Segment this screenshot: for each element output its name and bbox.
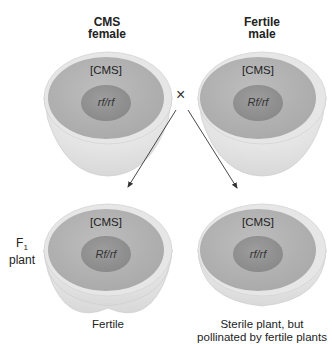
cytoplasm-label-f1-sterile: [CMS] xyxy=(208,216,308,228)
f1-subscript: 1 xyxy=(23,243,27,252)
caption-line-1: Fertile xyxy=(48,318,168,331)
caption-f1-fertile: Fertile xyxy=(48,318,168,331)
f1-plant-label: F1 plant xyxy=(5,237,39,267)
title-line-2: male xyxy=(207,28,317,40)
caption-line-2: pollinated by fertile plants xyxy=(190,331,332,344)
nucleus-genotype-male: Rf/rf xyxy=(233,96,283,108)
caption-line-1: Sterile plant, but xyxy=(190,318,332,331)
cytoplasm-label-f1-fertile: [CMS] xyxy=(56,216,156,228)
caption-f1-sterile: Sterile plant, but pollinated by fertile… xyxy=(190,318,332,344)
title-cms-female: CMS female xyxy=(52,16,162,40)
title-line-2: female xyxy=(52,28,162,40)
nucleus-genotype-f1-sterile: rf/rf xyxy=(233,248,283,260)
f1-plant-word: plant xyxy=(5,254,39,267)
cytoplasm-label-female: [CMS] xyxy=(56,64,156,76)
nucleus-genotype-female: rf/rf xyxy=(81,96,131,108)
cytoplasm-label-male: [CMS] xyxy=(208,64,308,76)
title-fertile-male: Fertile male xyxy=(207,16,317,40)
diagram-graphics xyxy=(0,0,332,344)
cross-symbol: × xyxy=(176,86,185,104)
nucleus-genotype-f1-fertile: Rf/rf xyxy=(81,248,131,260)
